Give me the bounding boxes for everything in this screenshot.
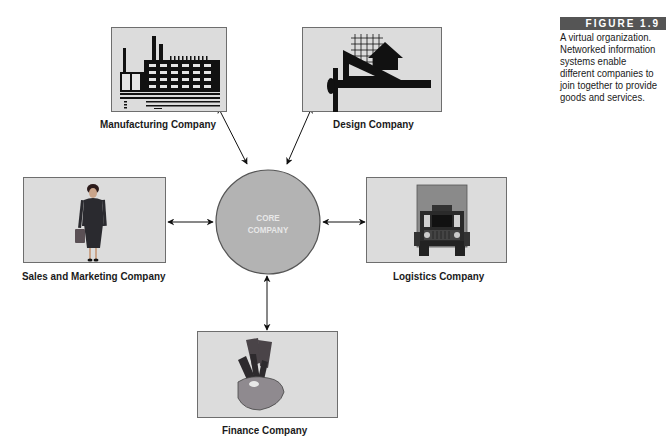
arrow-manufacturing [218, 107, 247, 164]
businesswoman-icon [24, 178, 167, 264]
figure-caption: A virtual organization. Networked inform… [560, 31, 659, 103]
core-line1: CORE [230, 212, 307, 224]
logistics-company-label: Logistics Company [393, 270, 484, 282]
factory-icon [112, 28, 228, 113]
design-company-box [302, 27, 442, 112]
logistics-company-box [366, 177, 507, 263]
manufacturing-company-box [111, 27, 227, 112]
core-line2: COMPANY [230, 224, 307, 236]
core-company-label: CORE COMPANY [230, 212, 307, 236]
drafting-tools-icon [303, 28, 443, 113]
hand-with-money-icon [198, 332, 339, 419]
sales-marketing-company-label: Sales and Marketing Company [22, 270, 165, 282]
arrow-design [287, 107, 312, 164]
design-company-label: Design Company [333, 118, 414, 130]
manufacturing-company-label: Manufacturing Company [100, 118, 216, 130]
finance-company-box [197, 331, 338, 418]
figure-number: FIGURE 1.9 [560, 17, 666, 30]
truck-icon [367, 178, 508, 264]
finance-company-label: Finance Company [222, 424, 307, 436]
sales-marketing-company-box [23, 177, 166, 263]
